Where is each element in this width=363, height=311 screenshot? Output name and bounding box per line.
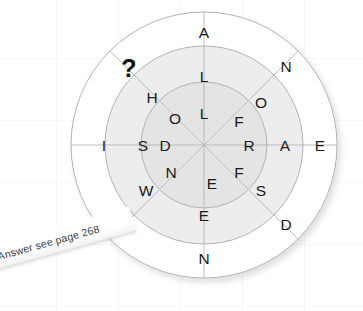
middle-letter-4: E — [199, 207, 209, 224]
middle-letter-7: H — [146, 89, 157, 106]
inner-letter-4: E — [207, 175, 217, 192]
outer-letter-4: N — [198, 250, 209, 267]
puzzle-page: A N E D N O I ? L O A S E W S H L F R F … — [0, 0, 363, 311]
middle-letter-3: S — [256, 182, 266, 199]
middle-letter-1: O — [255, 94, 267, 111]
inner-letter-1: F — [234, 113, 243, 130]
middle-letter-0: L — [200, 68, 209, 85]
inner-letter-5: N — [165, 164, 176, 181]
middle-letter-5: W — [139, 182, 154, 199]
inner-letter-2: R — [243, 137, 254, 154]
middle-letter-6: S — [138, 137, 148, 154]
inner-letter-7: O — [169, 110, 181, 127]
word-wheel[interactable]: A N E D N O I ? L O A S E W S H L F R F … — [0, 0, 363, 311]
outer-letter-7-question-mark[interactable]: ? — [121, 54, 136, 82]
middle-letter-2: A — [280, 137, 291, 154]
outer-letter-3: D — [280, 216, 291, 233]
outer-letter-6: I — [102, 137, 106, 154]
inner-letter-3: F — [234, 164, 243, 181]
inner-letter-0: L — [200, 105, 209, 122]
inner-letter-6: D — [159, 137, 170, 154]
outer-letter-0: A — [199, 24, 210, 41]
outer-letter-1: N — [280, 58, 291, 75]
outer-letter-2: E — [315, 137, 325, 154]
